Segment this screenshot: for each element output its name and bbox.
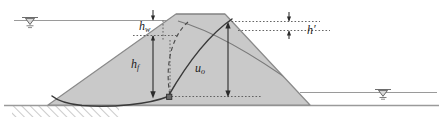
label-h-prime: h′: [307, 21, 316, 37]
dam-cross-section-figure: hw h′ hf uo: [0, 0, 443, 128]
water-table-symbol-downstream: [375, 90, 391, 100]
water-table-symbol-upstream: [22, 18, 38, 28]
label-u-o: uo: [195, 59, 205, 76]
label-h-f-sub: f: [137, 63, 139, 72]
foundation-hatching: [12, 106, 119, 117]
label-h-prime-mark: ′: [313, 22, 316, 36]
label-h-f: hf: [131, 55, 139, 72]
label-u-o-sub: o: [201, 67, 205, 76]
embankment-body: [48, 14, 310, 105]
label-h-w: hw: [139, 17, 150, 34]
slip-node-marker: [167, 94, 172, 99]
dam-diagram-svg: [0, 0, 443, 128]
label-h-w-sub: w: [145, 25, 150, 34]
dimension-h-prime: [287, 12, 291, 39]
